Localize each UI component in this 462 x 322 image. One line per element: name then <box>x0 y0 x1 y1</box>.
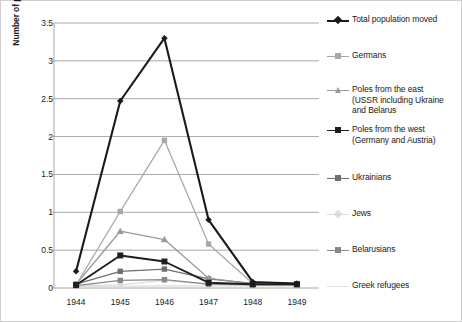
chart-figure: Number of people (in millions) 00.511.52… <box>0 0 462 322</box>
legend-item[interactable]: Germans <box>327 50 386 61</box>
legend-label: Greek refugees <box>349 280 409 291</box>
legend-item[interactable]: Poles from the west(Germany and Austria) <box>327 124 435 145</box>
legend-item[interactable]: Ukrainians <box>327 172 391 183</box>
legend-label: Total population moved <box>349 14 437 25</box>
legend-item[interactable]: Jews <box>327 208 371 219</box>
legend-item[interactable]: Greek refugees <box>327 280 409 291</box>
legend-marker-square-icon <box>327 173 349 183</box>
legend-item[interactable]: Total population moved <box>327 14 437 25</box>
legend-item[interactable]: Belarusians <box>327 244 395 255</box>
legend-marker-none-icon <box>327 281 349 291</box>
legend-marker-triangle-icon <box>327 85 349 95</box>
chart-legend: Total population movedGermansPoles from … <box>327 1 462 322</box>
legend-marker-diamond-icon <box>327 209 349 219</box>
legend-label: Poles from the west(Germany and Austria) <box>349 124 435 145</box>
gridlines <box>54 23 319 288</box>
legend-marker-diamond-icon <box>327 15 349 25</box>
legend-label: Jews <box>349 208 371 219</box>
legend-label: Ukrainians <box>349 172 391 183</box>
legend-marker-square-icon <box>327 51 349 61</box>
data-series <box>76 286 297 287</box>
y-axis <box>51 23 54 288</box>
data-series <box>72 228 300 287</box>
legend-item[interactable]: Poles from the east(USSR including Ukrai… <box>327 84 444 116</box>
data-series <box>73 35 300 287</box>
legend-label: Poles from the east(USSR including Ukrai… <box>349 84 444 116</box>
legend-marker-square-icon <box>327 125 349 135</box>
legend-label: Germans <box>349 50 386 61</box>
legend-label: Belarusians <box>349 244 395 255</box>
legend-marker-square-icon <box>327 245 349 255</box>
